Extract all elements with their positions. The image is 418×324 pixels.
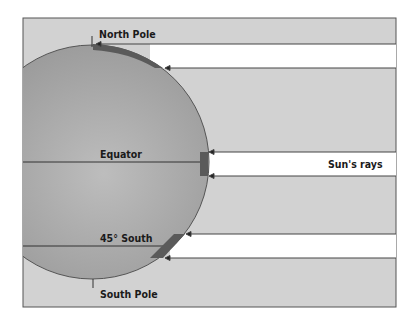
ray-band-north [150, 44, 396, 68]
south-pole-label: South Pole [100, 288, 158, 300]
sun-rays-label: Sun's rays [328, 158, 383, 170]
equator-patch [200, 152, 208, 176]
sun-angle-diagram: North Pole Equator 45° South South Pole … [0, 0, 418, 324]
south-45-label: 45° South [100, 232, 152, 244]
ray-band-south [170, 234, 396, 258]
north-pole-label: North Pole [99, 28, 156, 40]
equator-label: Equator [100, 148, 142, 160]
